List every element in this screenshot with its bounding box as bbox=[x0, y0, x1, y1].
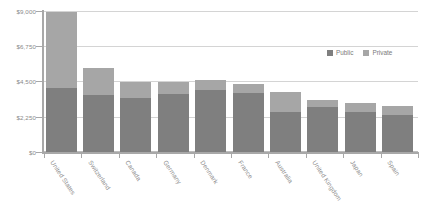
x-axis-label-united-kingdom: United Kingdom bbox=[311, 159, 343, 202]
y-axis-labels: $9,000 $6,750 $4,500 $2,250 $0 bbox=[0, 0, 36, 203]
x-axis-tick bbox=[418, 154, 419, 158]
bar-segment-public bbox=[382, 115, 413, 152]
x-axis-label-united-states: United States bbox=[49, 159, 77, 196]
x-axis-tick bbox=[156, 154, 157, 158]
legend-label-public: Public bbox=[336, 49, 353, 56]
x-axis-tick bbox=[306, 154, 307, 158]
y-axis-label-6750: $6,750 bbox=[2, 43, 36, 50]
x-axis-label-australia: Australia bbox=[274, 159, 294, 184]
bar-segment-public bbox=[345, 112, 376, 152]
y-axis-label-0: $0 bbox=[2, 149, 36, 156]
x-axis-tick bbox=[194, 154, 195, 158]
y-axis-label-2250: $2,250 bbox=[2, 114, 36, 121]
bar-segment-private bbox=[345, 103, 376, 112]
bar-segment-public bbox=[233, 93, 264, 152]
bar-segment-public bbox=[83, 95, 114, 152]
legend-label-private: Private bbox=[372, 49, 392, 56]
bar-group-united-kingdom[interactable] bbox=[307, 100, 338, 152]
legend-item-private[interactable]: Private bbox=[363, 49, 392, 56]
bar-segment-private bbox=[158, 82, 189, 95]
bar-segment-private bbox=[195, 80, 226, 90]
bar-segment-private bbox=[120, 82, 151, 99]
x-axis-label-japan: Japan bbox=[349, 159, 365, 178]
bar-group-united-states[interactable] bbox=[46, 12, 77, 152]
bar-segment-public bbox=[195, 90, 226, 152]
gridline-9000 bbox=[44, 11, 418, 12]
bar-segment-private bbox=[83, 68, 114, 95]
x-axis-tick bbox=[343, 154, 344, 158]
bar-group-denmark[interactable] bbox=[195, 80, 226, 152]
bar-segment-private bbox=[46, 12, 77, 88]
x-axis-tick bbox=[268, 154, 269, 158]
x-axis-tick bbox=[231, 154, 232, 158]
x-axis-label-denmark: Denmark bbox=[199, 159, 220, 185]
x-axis-tick bbox=[81, 154, 82, 158]
bar-group-spain[interactable] bbox=[382, 106, 413, 152]
legend-item-public[interactable]: Public bbox=[327, 49, 353, 56]
y-axis-tick bbox=[36, 46, 43, 47]
bar-group-australia[interactable] bbox=[270, 92, 301, 152]
y-axis-label-9000: $9,000 bbox=[2, 8, 36, 15]
bar-segment-private bbox=[382, 106, 413, 115]
plot-area bbox=[44, 11, 418, 152]
stacked-bar-chart: $9,000 $6,750 $4,500 $2,250 $0 United St… bbox=[0, 0, 423, 203]
bar-group-japan[interactable] bbox=[345, 103, 376, 152]
legend-swatch-private bbox=[363, 50, 369, 56]
x-axis-label-canada: Canada bbox=[124, 159, 143, 182]
bar-segment-public bbox=[120, 98, 151, 152]
y-axis-label-4500: $4,500 bbox=[2, 78, 36, 85]
bar-group-canada[interactable] bbox=[120, 82, 151, 153]
bar-segment-private bbox=[270, 92, 301, 112]
bar-segment-public bbox=[307, 107, 338, 152]
y-axis-tick bbox=[36, 117, 43, 118]
chart-legend: Public Private bbox=[327, 49, 392, 56]
bar-group-germany[interactable] bbox=[158, 82, 189, 153]
x-axis-tick bbox=[44, 154, 45, 158]
bar-segment-public bbox=[270, 112, 301, 152]
y-axis-tick bbox=[36, 11, 43, 12]
legend-swatch-public bbox=[327, 50, 333, 56]
x-axis-tick bbox=[119, 154, 120, 158]
bar-segment-private bbox=[233, 84, 264, 93]
y-axis-tick bbox=[36, 152, 43, 153]
x-axis-label-switzerland: Switzerland bbox=[87, 159, 112, 191]
bar-segment-private bbox=[307, 100, 338, 107]
bar-segment-public bbox=[46, 88, 77, 152]
bar-group-france[interactable] bbox=[233, 84, 264, 152]
y-axis-tick bbox=[36, 81, 43, 82]
x-axis-tick bbox=[381, 154, 382, 158]
x-axis-label-spain: Spain bbox=[386, 159, 401, 177]
x-axis-label-france: France bbox=[237, 159, 254, 180]
x-axis-label-germany: Germany bbox=[162, 159, 183, 185]
bar-group-switzerland[interactable] bbox=[83, 68, 114, 152]
bar-segment-public bbox=[158, 94, 189, 152]
gridline-6750 bbox=[44, 46, 418, 47]
